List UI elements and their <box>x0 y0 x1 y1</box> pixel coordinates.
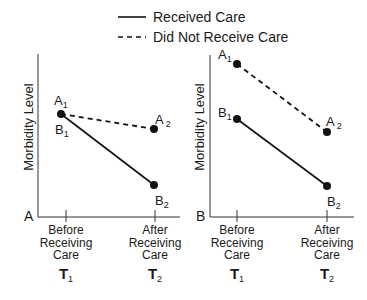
x-tick-label-t2: After Receiving Care T2 <box>301 223 354 284</box>
point-a1-b1 <box>57 110 65 118</box>
label-b2: B2 <box>327 194 341 211</box>
svg-text:T2: T2 <box>320 265 334 284</box>
line-received-care <box>61 114 154 185</box>
panel-label: A <box>24 208 34 224</box>
svg-text:T1: T1 <box>59 265 73 284</box>
panel-label: B <box>196 208 205 224</box>
label-a2: A2 <box>155 112 171 129</box>
line-received-care <box>237 119 327 186</box>
legend: Received Care Did Not Receive Care <box>118 9 289 45</box>
x-tick-label-t2: After Receiving Care T2 <box>129 223 182 284</box>
point-b1 <box>233 115 241 123</box>
svg-text:T1: T1 <box>230 265 244 284</box>
line-did-not-receive-care <box>61 114 154 129</box>
svg-text:After: After <box>142 223 167 237</box>
point-b2 <box>150 181 158 189</box>
panel-b: B Morbidity Level A1 B1 A2 B2 Before Rec… <box>192 47 354 284</box>
x-tick-label-t1: Before Receiving Care T1 <box>40 223 93 284</box>
label-b1: B1 <box>55 122 69 139</box>
label-a1: A1 <box>54 93 68 110</box>
y-axis-label: Morbidity Level <box>21 83 36 171</box>
svg-text:Before: Before <box>48 223 84 237</box>
point-a1 <box>233 60 241 68</box>
point-b2 <box>323 182 331 190</box>
point-a2 <box>323 128 331 136</box>
svg-text:Care: Care <box>142 248 168 262</box>
svg-text:Care: Care <box>314 248 340 262</box>
svg-text:After: After <box>314 223 339 237</box>
label-b1: B1 <box>218 105 232 122</box>
legend-received-care: Received Care <box>153 9 246 25</box>
line-did-not-receive-care <box>237 64 327 132</box>
svg-text:T2: T2 <box>148 265 162 284</box>
panel-a: A Morbidity Level A1 B1 A2 B2 Before Rec… <box>21 54 181 284</box>
svg-text:Care: Care <box>224 248 250 262</box>
label-b2: B2 <box>155 193 169 210</box>
svg-text:Before: Before <box>219 223 255 237</box>
label-a1: A1 <box>218 47 232 64</box>
legend-did-not-receive-care: Did Not Receive Care <box>153 29 289 45</box>
figure-canvas: Received Care Did Not Receive Care A Mor… <box>0 0 367 300</box>
x-tick-label-t1: Before Receiving Care T1 <box>211 223 264 284</box>
label-a2: A2 <box>326 114 342 131</box>
svg-text:Care: Care <box>53 248 79 262</box>
y-axis-label: Morbidity Level <box>192 83 207 171</box>
